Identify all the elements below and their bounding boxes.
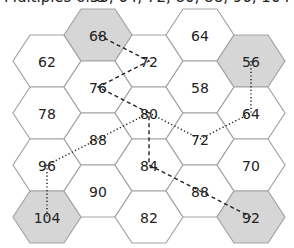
cell-label: 92 — [242, 210, 260, 226]
cell-label: 62 — [38, 54, 56, 70]
hexagon-grid: 6278961046876889072808482645872885664709… — [0, 0, 294, 248]
cell-label: 88 — [191, 184, 209, 200]
cell-label: 88 — [89, 132, 107, 148]
cell-label: 68 — [89, 28, 107, 44]
cell-label: 104 — [34, 210, 61, 226]
cell-label: 96 — [38, 158, 56, 174]
cell-label: 80 — [140, 106, 158, 122]
cell-label: 90 — [89, 184, 107, 200]
cell-label: 76 — [89, 80, 107, 96]
cell-label: 84 — [140, 158, 158, 174]
cell-label: 56 — [242, 54, 260, 70]
cell-label: 72 — [191, 132, 209, 148]
cell-label: 72 — [140, 54, 158, 70]
cell-label: 70 — [242, 158, 260, 174]
cell-label: 78 — [38, 106, 56, 122]
cell-label: 82 — [140, 210, 158, 226]
cell-label: 64 — [242, 106, 260, 122]
cell-label: 58 — [191, 80, 209, 96]
cell-label: 64 — [191, 28, 209, 44]
